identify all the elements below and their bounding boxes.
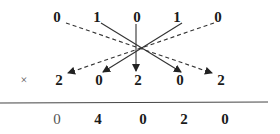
result-digit: 0 <box>53 112 61 127</box>
result-digit: 4 <box>94 112 102 127</box>
bottom-digit: 2 <box>55 73 63 88</box>
top-digit: 0 <box>214 10 222 25</box>
top-digit: 0 <box>133 10 141 25</box>
multiply-sign: × <box>21 73 28 88</box>
bottom-digit: 0 <box>95 73 103 88</box>
result-digit: 2 <box>180 112 188 127</box>
solid-arrow-4-to-2 <box>103 23 182 72</box>
bottom-digit: 0 <box>176 73 184 88</box>
bottom-digit: 2 <box>134 73 142 88</box>
bottom-digit: 2 <box>217 73 225 88</box>
result-digit: 0 <box>221 112 229 127</box>
top-digit: 1 <box>173 10 181 25</box>
top-digit: 0 <box>53 10 61 25</box>
top-digit: 1 <box>93 10 101 25</box>
dashed-arrow-right-to-left <box>68 23 214 73</box>
result-separator-line <box>0 102 268 103</box>
dashed-arrow-left-to-right <box>66 23 212 73</box>
result-digit: 0 <box>139 112 147 127</box>
